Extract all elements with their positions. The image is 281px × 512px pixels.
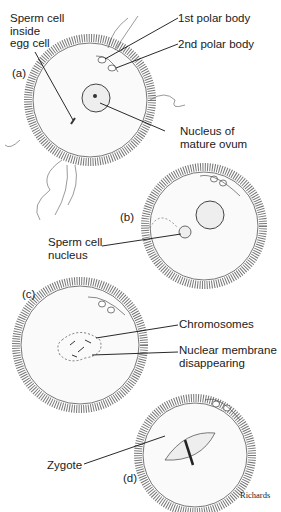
panel-label-d: (d) <box>123 472 137 485</box>
egg-b <box>145 167 263 285</box>
panel-label-a: (a) <box>12 67 26 80</box>
label-chromosomes: Chromosomes <box>179 318 254 331</box>
label-first-polar-body: 1st polar body <box>178 12 250 25</box>
fertilization-diagram <box>0 0 281 512</box>
egg-d <box>138 398 252 512</box>
label-nuclear-membrane: Nuclear membrane disappearing <box>179 344 277 369</box>
label-zygote: Zygote <box>47 459 82 472</box>
label-sperm-cell-nucleus: Sperm cell nucleus <box>48 236 102 261</box>
panel-label-c: (c) <box>22 288 35 301</box>
label-second-polar-body: 2nd polar body <box>178 38 254 51</box>
artist-credit: Richards <box>240 490 270 500</box>
label-sperm-inside-egg: Sperm cell inside egg cell <box>10 12 64 50</box>
label-nucleus-mature-ovum: Nucleus of mature ovum <box>180 125 247 150</box>
panel-label-b: (b) <box>120 211 134 224</box>
